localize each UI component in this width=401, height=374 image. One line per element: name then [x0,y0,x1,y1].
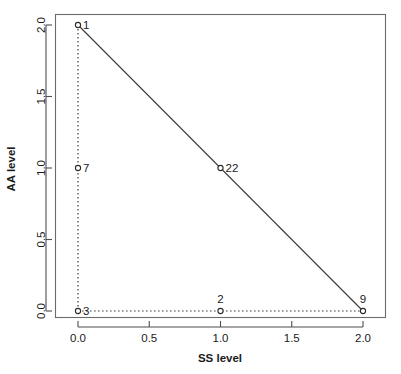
x-axis-tick-label: 1.5 [284,332,300,344]
y-axis-tick-label: 1.0 [35,160,47,176]
y-axis-tick-label: 2.0 [35,17,47,33]
y-axis-tick-label: 0.0 [35,303,47,319]
data-point-label: 3 [83,305,89,317]
scatter-plot-figure: 0.00.51.01.52.0 0.00.51.01.52.0 1722329 … [0,0,401,374]
data-point-label: 2 [217,293,223,305]
x-axis-tick-label: 0.5 [141,332,157,344]
data-point-marker [218,165,223,170]
data-point-label: 9 [360,293,366,305]
data-point-marker [75,308,80,313]
y-axis-tick-label: 0.5 [35,232,47,248]
x-axis-title: SS level [198,352,242,364]
x-axis-tick-label: 2.0 [355,332,371,344]
x-axis-tick-label: 0.0 [70,332,86,344]
data-point-marker [218,308,223,313]
data-point-marker [360,308,365,313]
plot-canvas: 0.00.51.01.52.0 0.00.51.01.52.0 1722329 … [0,0,401,374]
data-point-label: 1 [83,19,89,31]
y-axis-title: AA level [5,147,17,192]
data-point-label: 7 [83,162,89,174]
y-axis-tick-label: 1.5 [35,89,47,105]
data-point-label: 22 [226,162,239,174]
data-point-marker [75,165,80,170]
x-axis-tick-label: 1.0 [213,332,229,344]
data-point-marker [75,22,80,27]
